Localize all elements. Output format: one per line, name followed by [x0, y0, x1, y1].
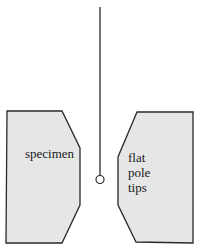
probe-sphere — [96, 176, 104, 184]
pole-tips-label: flat pole tips — [128, 150, 150, 195]
pole-tips-label-line-3: tips — [128, 180, 150, 195]
specimen-block — [6, 111, 80, 243]
pole-tips-label-line-1: flat — [128, 150, 150, 165]
specimen-label: specimen — [25, 146, 74, 161]
diagram-canvas — [0, 0, 200, 249]
pole-tips-label-line-2: pole — [128, 165, 150, 180]
